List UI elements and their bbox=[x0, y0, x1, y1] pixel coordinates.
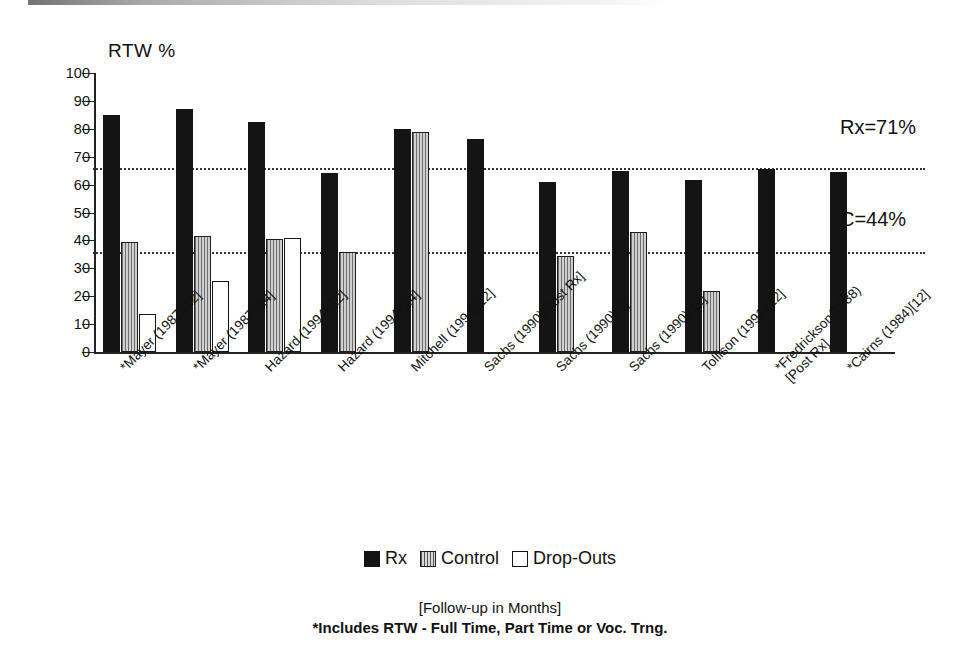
legend-label-rx: Rx bbox=[385, 548, 407, 569]
chart-footnotes: [Follow-up in Months] *Includes RTW - Fu… bbox=[0, 598, 980, 639]
legend-swatch-dropouts-icon bbox=[512, 551, 528, 567]
x-axis-label-line1: Sachs (1990)[12] bbox=[626, 291, 709, 374]
legend-label-dropouts: Drop-Outs bbox=[533, 548, 616, 569]
legend-item-dropouts: Drop-Outs bbox=[512, 548, 616, 569]
legend-label-control: Control bbox=[441, 548, 499, 569]
x-axis-labels: *Mayer (1987)[12]*Mayer (1987)[24]Hazard… bbox=[0, 0, 980, 672]
legend-item-control: Control bbox=[420, 548, 499, 569]
x-axis-label: Sachs (1990)[12] bbox=[626, 291, 709, 374]
legend-swatch-control-icon bbox=[420, 551, 436, 567]
footnote-followup: [Follow-up in Months] bbox=[0, 598, 980, 618]
legend-item-rx: Rx bbox=[364, 548, 407, 569]
chart-legend: Rx Control Drop-Outs bbox=[0, 548, 980, 569]
legend-swatch-rx-icon bbox=[364, 551, 380, 567]
x-axis-label: Sachs (1990)[6] bbox=[553, 297, 631, 375]
footnote-includes-rtw: *Includes RTW - Full Time, Part Time or … bbox=[0, 618, 980, 638]
chart-canvas: RTW % 1009080706050403020100 Rx=71% C=44… bbox=[0, 0, 980, 672]
x-axis-label-line1: Sachs (1990)[6] bbox=[553, 297, 631, 375]
